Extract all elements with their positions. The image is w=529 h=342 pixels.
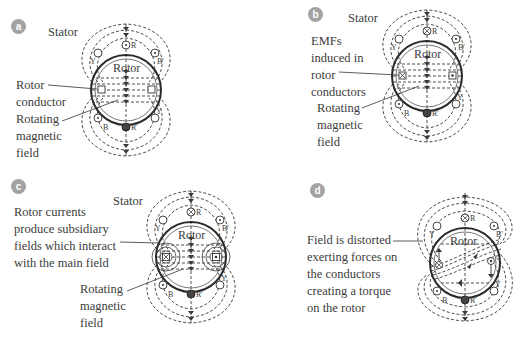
svg-text:B': B' xyxy=(496,230,503,239)
svg-text:Y: Y xyxy=(90,57,96,66)
motor-diagram-c: Rotor RYB' BR'Y xyxy=(0,171,264,342)
motor-diagram-d: Rotor RYB' BR'Y xyxy=(265,171,529,342)
svg-text:R': R' xyxy=(196,290,203,299)
svg-text:Y: Y xyxy=(221,274,227,283)
svg-text:Y: Y xyxy=(156,107,162,116)
svg-text:B: B xyxy=(404,109,409,118)
svg-text:B: B xyxy=(168,290,173,299)
rotor-label: Rotor xyxy=(450,234,477,248)
svg-text:R: R xyxy=(470,214,476,223)
svg-text:Y: Y xyxy=(429,230,435,239)
rotor-label: Rotor xyxy=(414,47,441,61)
svg-text:B: B xyxy=(103,123,108,132)
rotor-label: Rotor xyxy=(113,61,140,75)
svg-text:R: R xyxy=(196,208,202,217)
svg-text:B': B' xyxy=(157,57,164,66)
svg-text:Y: Y xyxy=(155,224,161,233)
svg-text:R': R' xyxy=(470,296,477,305)
svg-text:R: R xyxy=(432,27,438,36)
svg-text:Y: Y xyxy=(391,43,397,52)
panel-b: b Stator EMFs induced in rotor conductor… xyxy=(265,0,529,171)
svg-text:Y: Y xyxy=(495,280,501,289)
svg-text:B': B' xyxy=(222,224,229,233)
svg-text:B: B xyxy=(442,296,447,305)
svg-text:R: R xyxy=(131,41,137,50)
motor-diagram-a: Rotor RYB' BR'Y xyxy=(0,0,264,171)
svg-text:Y: Y xyxy=(457,93,463,102)
svg-text:R': R' xyxy=(131,123,138,132)
panel-c: c Stator Rotor currents produce subsidia… xyxy=(0,171,264,342)
rotor-label: Rotor xyxy=(178,228,205,242)
svg-text:R': R' xyxy=(432,109,439,118)
panel-d: d Field is distorted exerting forces on … xyxy=(265,171,529,342)
panel-a: a Stator Rotor conductor Rotating magnet… xyxy=(0,0,264,171)
motor-diagram-b: Rotor RYB' BR'Y xyxy=(265,0,529,171)
svg-text:B': B' xyxy=(458,43,465,52)
